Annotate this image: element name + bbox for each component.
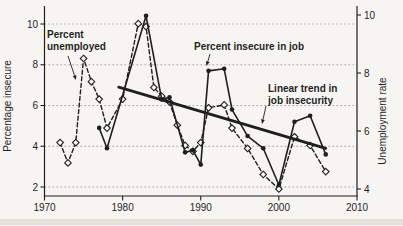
circle-marker: [245, 134, 250, 139]
right-tick-label: 6: [364, 126, 370, 137]
left-tick-label: 2: [32, 182, 38, 193]
x-tick-label: 2000: [268, 202, 291, 213]
circle-marker: [277, 183, 282, 188]
circle-marker: [183, 150, 188, 155]
right-tick-label: 4: [364, 184, 370, 195]
x-tick-label: 1970: [33, 202, 56, 213]
circle-marker: [222, 67, 227, 72]
annotation-text: Linear trend injob insecurity: [267, 83, 337, 106]
scan-artifact: [0, 219, 403, 225]
circle-marker: [167, 95, 172, 100]
x-tick-label: 1980: [112, 202, 135, 213]
circle-marker: [292, 120, 297, 125]
left-tick-label: 10: [27, 19, 39, 30]
circle-marker: [97, 126, 102, 131]
left-axis-title: Percentage insecure: [2, 60, 13, 152]
circle-marker: [323, 152, 328, 157]
circle-marker: [144, 14, 149, 19]
left-tick-label: 6: [32, 100, 38, 111]
annotation-text: Percent insecure in job: [194, 41, 304, 52]
circle-marker: [198, 162, 203, 167]
circle-marker: [261, 146, 266, 151]
circle-marker: [206, 69, 211, 74]
circle-marker: [105, 146, 110, 151]
chart-canvas: 2468104681019701980199020002010Percentag…: [0, 0, 403, 226]
left-tick-label: 4: [32, 141, 38, 152]
circle-marker: [230, 107, 235, 112]
circle-marker: [308, 113, 313, 118]
x-tick-label: 1990: [190, 202, 213, 213]
right-tick-label: 10: [364, 10, 376, 21]
right-tick-label: 8: [364, 68, 370, 79]
figure-job-insecurity-vs-unemployment: 2468104681019701980199020002010Percentag…: [0, 0, 403, 226]
right-axis-title: Unemployment rate: [377, 77, 388, 165]
x-tick-label: 2010: [346, 202, 369, 213]
left-tick-label: 8: [32, 59, 38, 70]
circle-marker: [191, 148, 196, 153]
